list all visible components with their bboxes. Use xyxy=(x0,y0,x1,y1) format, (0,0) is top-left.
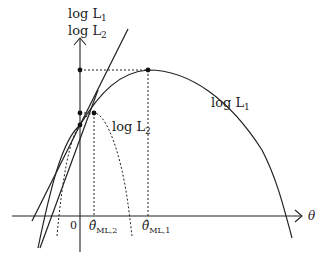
origin-label: 0 xyxy=(70,219,77,232)
max-point-l2 xyxy=(92,111,97,116)
curve-log-l2-label: log L2 xyxy=(112,119,151,136)
y-axis-point-l1-max xyxy=(78,68,83,73)
y-axis-label-2: log L2 xyxy=(68,23,107,40)
x-axis-label: θ xyxy=(308,209,316,223)
likelihood-diagram: log L1 log L2 log L1 log L2 0 θ̂ML,2 θ̂M… xyxy=(0,0,329,259)
curve-log-l1-label: log L1 xyxy=(211,95,250,112)
theta-ml1-label: θ̂ML,1 xyxy=(142,219,170,235)
max-point-l1 xyxy=(146,68,151,73)
theta-ml2-label: θ̂ML,2 xyxy=(89,219,117,235)
intersection-point xyxy=(78,123,83,128)
guide-lines xyxy=(80,70,148,216)
y-axis-point-l2-max xyxy=(78,111,83,116)
y-axis-label-1: log L1 xyxy=(68,6,107,23)
